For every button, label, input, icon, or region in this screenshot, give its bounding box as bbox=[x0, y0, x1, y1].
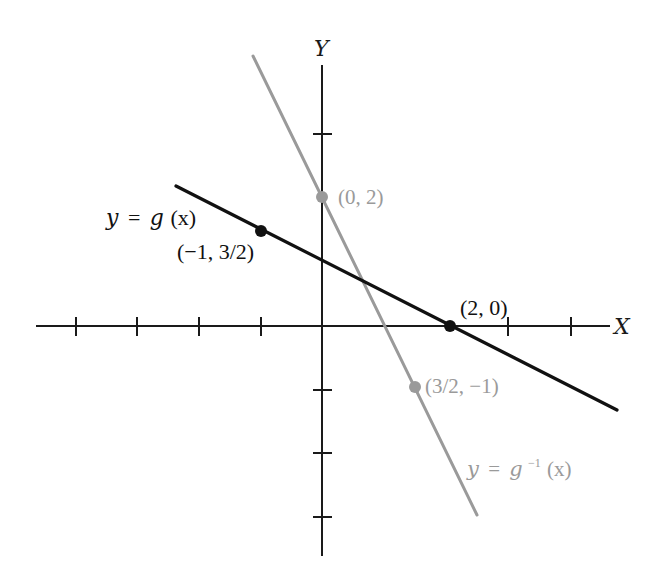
point-label-0-2: (0, 2) bbox=[338, 185, 384, 209]
point-label-2-0: (2, 0) bbox=[460, 295, 508, 320]
curve-g-inverse bbox=[253, 56, 477, 515]
point-ginv-0-2 bbox=[316, 191, 328, 203]
graph-canvas: Y X y = g (x) y = g −1 (x) (−1, 3/2) (2,… bbox=[0, 0, 659, 586]
label-g-inverse: y = g −1 (x) bbox=[466, 448, 571, 481]
y-axis-label: Y bbox=[314, 36, 331, 61]
point-label-neg1-3half: (−1, 3/2) bbox=[177, 239, 254, 264]
point-g-neg1-3half bbox=[255, 225, 267, 237]
point-ginv-3half-neg1 bbox=[409, 381, 421, 393]
point-g-2-0 bbox=[444, 320, 456, 332]
curve-g bbox=[176, 186, 617, 410]
x-axis-label: X bbox=[612, 314, 631, 339]
label-g: y = g (x) bbox=[105, 205, 196, 230]
point-label-3half-neg1: (3/2, −1) bbox=[425, 374, 499, 398]
